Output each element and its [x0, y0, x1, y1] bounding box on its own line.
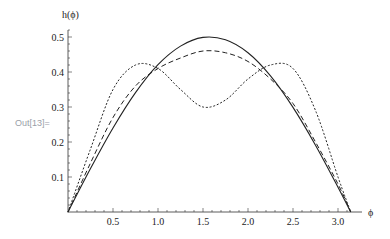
curve-solid: [68, 37, 351, 212]
y-tick-label: 0.5: [52, 32, 65, 43]
y-tick-label: 0.4: [52, 67, 65, 78]
line-chart: 0.51.01.52.02.53.00.10.20.30.40.5 h(ϕ) ϕ: [0, 0, 390, 239]
x-tick-label: 0.5: [107, 216, 120, 227]
y-axis-title: h(ϕ): [62, 9, 79, 21]
curve-dashed: [68, 51, 351, 212]
y-tick-label: 0.1: [52, 172, 65, 183]
x-tick-label: 1.0: [152, 216, 165, 227]
x-tick-label: 3.0: [332, 216, 345, 227]
x-axis-title: ϕ: [368, 207, 373, 218]
x-tick-label: 1.5: [197, 216, 210, 227]
y-tick-label: 0.3: [52, 102, 65, 113]
x-tick-label: 2.0: [242, 216, 255, 227]
plot-curves: [68, 37, 351, 212]
y-tick-label: 0.2: [52, 137, 65, 148]
curve-dotted: [68, 63, 351, 212]
x-tick-label: 2.5: [287, 216, 300, 227]
